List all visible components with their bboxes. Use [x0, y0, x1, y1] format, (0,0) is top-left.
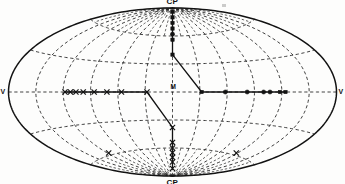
label-map-center: M — [171, 84, 177, 91]
data-point-north-meridian-track-0 — [170, 10, 174, 14]
data-point-equator-east-track-1 — [223, 90, 227, 94]
scan-artifact-speck — [222, 4, 226, 7]
sky-map-figure: CP CP V V M — [0, 0, 345, 184]
data-point-north-meridian-track-4 — [170, 32, 174, 36]
data-point-north-meridian-track-3 — [171, 27, 174, 30]
data-point-equator-east-track-2 — [245, 90, 249, 94]
data-point-equator-east-track-4 — [268, 90, 272, 94]
data-point-equator-east-track-5 — [278, 90, 281, 93]
label-right-vernal-equinox: V — [339, 88, 344, 95]
data-point-north-meridian-track-5 — [171, 38, 174, 41]
label-left-vernal-equinox: V — [1, 88, 6, 95]
label-north-celestial-pole: CP — [167, 0, 179, 6]
data-point-north-meridian-track-2 — [171, 21, 174, 24]
aitoff-projection-plot — [0, 0, 345, 184]
label-south-celestial-pole: CP — [167, 179, 179, 184]
data-point-north-meridian-track-6 — [171, 53, 174, 56]
data-point-equator-east-track-0 — [200, 90, 203, 93]
data-point-equator-east-track-6 — [284, 90, 287, 93]
data-point-equator-east-track-3 — [262, 90, 266, 94]
data-point-north-meridian-track-1 — [171, 16, 174, 19]
